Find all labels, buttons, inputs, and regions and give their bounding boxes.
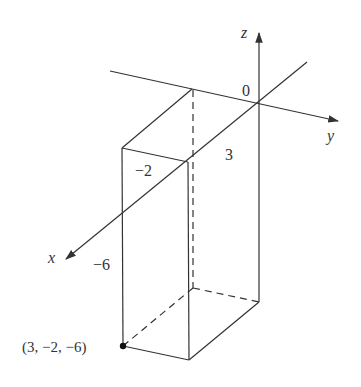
box-edge-bottom-hidden-back (193, 288, 259, 302)
coordinate-box-diagram: z y x 0 3 −2 −6 (3, −2, −6) (0, 0, 361, 387)
box-edge-vertical-front (188, 162, 189, 360)
box-edge-bottom-hidden-left (123, 288, 193, 346)
box-edge-top-back (122, 89, 192, 148)
point-label: (3, −2, −6) (22, 339, 86, 356)
dimension-label-neg2: −2 (135, 162, 152, 179)
y-axis-label: y (325, 127, 335, 145)
y-axis (110, 71, 338, 121)
origin-label: 0 (242, 82, 250, 99)
box-edge-vertical-left (122, 148, 123, 346)
point-marker (120, 343, 126, 349)
z-axis-label: z (240, 24, 248, 41)
x-axis (66, 62, 307, 259)
box-edge-top-front (122, 148, 188, 162)
box-edge-bottom-right (189, 302, 259, 360)
box-edge-bottom-front (123, 346, 189, 360)
x-axis-label: x (47, 249, 55, 266)
dimension-label-3: 3 (225, 146, 233, 163)
dimension-label-neg6: −6 (93, 256, 110, 273)
